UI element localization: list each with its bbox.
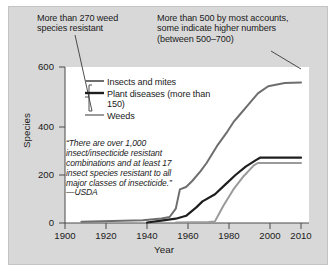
figure-panel: More than 270 weed species resistant Mor… bbox=[8, 6, 328, 265]
usda-quote-text: “There are over 1,000 insect/insecticide… bbox=[66, 138, 172, 188]
x-tick-label-1960: 1960 bbox=[173, 230, 203, 241]
x-axis-title: Year bbox=[119, 244, 209, 255]
annotation-weeds: More than 270 weed species resistant bbox=[37, 13, 149, 34]
x-tick-label-2000: 2000 bbox=[255, 230, 285, 241]
usda-quote-block: “There are over 1,000 insect/insecticide… bbox=[66, 129, 188, 208]
annotation-insects: More than 500 by most accounts, some ind… bbox=[157, 13, 325, 44]
y-axis-title: Species bbox=[21, 101, 32, 161]
y-tick-label-0: 0 bbox=[28, 217, 54, 228]
plot-wrapper: More than 270 weed species resistant Mor… bbox=[9, 7, 327, 264]
x-tick-label-1980: 1980 bbox=[214, 230, 244, 241]
y-axis-ticks bbox=[59, 67, 65, 223]
legend-label-insects-and-mites: Insects and mites bbox=[107, 77, 176, 87]
x-tick-label-1900: 1900 bbox=[50, 230, 80, 241]
legend-label-weeds: Weeds bbox=[107, 111, 135, 121]
x-tick-label-1920: 1920 bbox=[91, 230, 121, 241]
y-tick-label-200: 200 bbox=[28, 169, 54, 180]
legend-label-plant-diseases: Plant diseases (more than 150) bbox=[107, 89, 225, 110]
x-tick-label-2010: 2010 bbox=[286, 230, 316, 241]
y-tick-label-600: 600 bbox=[28, 61, 54, 72]
y-tick-label-400: 400 bbox=[28, 121, 54, 132]
x-axis-ticks bbox=[65, 223, 301, 229]
insects-annotation-leader bbox=[271, 51, 301, 69]
x-tick-label-1940: 1940 bbox=[132, 230, 162, 241]
usda-quote-source: —USDA bbox=[66, 188, 188, 198]
